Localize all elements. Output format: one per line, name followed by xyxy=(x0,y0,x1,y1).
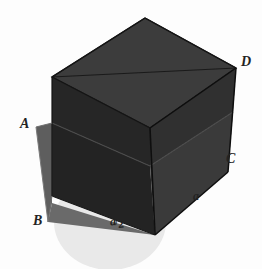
edge-length-label-a: a xyxy=(193,190,199,202)
vertex-label-d: D xyxy=(241,55,251,69)
edge-length-label-half-a: a/2 xyxy=(110,212,124,228)
figure-canvas xyxy=(0,0,262,269)
cutting-plane-left xyxy=(36,123,52,222)
fraction-a-over-2: a/2 xyxy=(110,214,124,228)
fraction-denominator: 2 xyxy=(117,217,124,231)
vertex-label-b: B xyxy=(33,214,42,228)
geometry-figure: A B C D a a/2 xyxy=(0,0,262,269)
vertex-label-a: A xyxy=(20,117,29,131)
vertex-label-c: C xyxy=(226,152,235,166)
